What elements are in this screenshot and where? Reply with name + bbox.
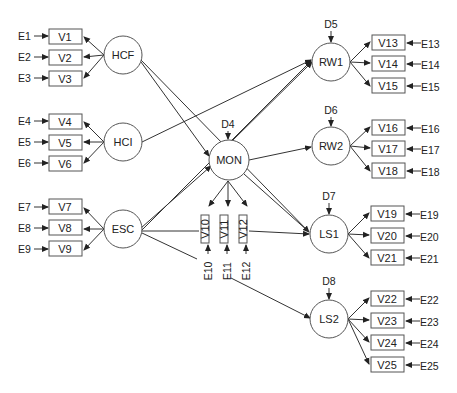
error-e11: E11 (221, 262, 233, 280)
error-e4: E4 (18, 115, 31, 127)
error-e22: E22 (420, 294, 439, 306)
path-mon-rw2 (249, 147, 311, 160)
indicator-v14-label: V14 (378, 58, 398, 70)
rw2-block: D6 RW2 V16 V17 V18 E16 E17 E18 (312, 104, 440, 178)
error-e15: E15 (421, 81, 440, 93)
indicator-v13-label: V13 (378, 37, 398, 49)
disturbance-d8: D8 (322, 275, 336, 287)
indicator-v4-label: V4 (58, 116, 71, 128)
latent-mon-label: MON (216, 154, 242, 166)
mon-block: MON D4 V10 V11 V12 E10 E11 E12 (199, 118, 252, 280)
indicator-v22-label: V22 (377, 293, 397, 305)
error-e12: E12 (240, 262, 252, 281)
error-e8: E8 (18, 222, 31, 234)
indicator-v9-label: V9 (58, 243, 71, 255)
latent-ls1-label: LS1 (319, 228, 339, 240)
error-e2: E2 (18, 51, 31, 63)
indicator-v20-label: V20 (377, 230, 397, 242)
indicator-v24-label: V24 (377, 337, 397, 349)
latent-esc-label: ESC (112, 223, 135, 235)
error-e10: E10 (202, 262, 214, 281)
indicator-v3-label: V3 (58, 73, 71, 85)
indicator-v7-label: V7 (58, 201, 71, 213)
latent-rw1-label: RW1 (319, 56, 343, 68)
indicator-v6-label: V6 (58, 158, 71, 170)
indicator-v19-label: V19 (377, 208, 397, 220)
disturbance-d6: D6 (324, 104, 338, 116)
error-e21: E21 (420, 253, 439, 265)
error-e3: E3 (18, 72, 31, 84)
esc-block: ESC V7 V8 V9 E7 E8 E9 (18, 199, 142, 256)
disturbance-d5: D5 (324, 18, 338, 30)
error-e25: E25 (420, 360, 439, 372)
path-esc-ls2-seg2 (231, 278, 310, 318)
error-e7: E7 (18, 201, 31, 213)
ls2-block: D8 LS2 V22 V23 V24 V25 E22 E23 E24 E25 (310, 275, 439, 372)
path-mon-rw1 (232, 62, 312, 141)
ls1-block: D7 LS1 V19 V20 V21 E19 E20 E21 (310, 190, 439, 265)
path-mon-ls1 (244, 174, 309, 232)
error-e1: E1 (18, 30, 31, 42)
indicator-v5-label: V5 (58, 137, 71, 149)
path-esc-ls2-seg1 (142, 233, 197, 259)
hci-block: HCI V4 V5 V6 E4 E5 E6 (18, 114, 142, 171)
indicator-v1-label: V1 (58, 31, 71, 43)
error-e19: E19 (420, 209, 439, 221)
indicator-v10-label: V10 (199, 219, 211, 239)
latent-ls2-label: LS2 (319, 313, 339, 325)
indicator-v15-label: V15 (378, 80, 398, 92)
error-e9: E9 (18, 243, 31, 255)
indicator-v23-label: V23 (377, 315, 397, 327)
rw1-block: D5 RW1 V13 V14 V15 E13 E14 E15 (312, 18, 440, 93)
indicator-v17-label: V17 (378, 143, 398, 155)
error-e20: E20 (420, 231, 439, 243)
indicator-v11-label: V11 (218, 220, 230, 239)
latent-rw2-label: RW2 (319, 140, 343, 152)
indicator-v8-label: V8 (58, 222, 71, 234)
error-e16: E16 (421, 123, 440, 135)
disturbance-d4: D4 (221, 118, 235, 130)
latent-hci-label: HCI (114, 136, 133, 148)
error-e14: E14 (421, 59, 440, 71)
indicator-v16-label: V16 (378, 122, 398, 134)
indicator-v21-label: V21 (377, 252, 397, 264)
error-e6: E6 (18, 157, 31, 169)
indicator-v2-label: V2 (58, 52, 71, 64)
path-esc-ls1-seg2 (249, 231, 309, 234)
disturbance-d7: D7 (322, 190, 336, 202)
error-e24: E24 (420, 338, 439, 350)
error-e18: E18 (421, 166, 440, 178)
path-hcf-mon (141, 62, 209, 156)
error-e5: E5 (18, 136, 31, 148)
indicator-v25-label: V25 (377, 359, 397, 371)
latent-hcf-label: HCF (112, 49, 135, 61)
hcf-block: HCF V1 V2 V3 E1 E2 E3 (18, 29, 142, 86)
error-e23: E23 (420, 316, 439, 328)
error-e17: E17 (421, 144, 440, 156)
sem-diagram: HCF V1 V2 V3 E1 E2 E3 HCI V4 V5 V6 E4 E5… (0, 0, 457, 393)
error-e13: E13 (421, 38, 440, 50)
indicator-v18-label: V18 (378, 165, 398, 177)
indicator-v12-label: V12 (237, 219, 249, 239)
